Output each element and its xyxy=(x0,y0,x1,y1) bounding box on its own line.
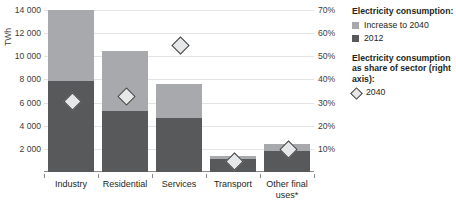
legend-label-increase: Increase to 2040 xyxy=(364,20,429,31)
legend-item-2040: 2040 xyxy=(352,87,456,98)
chart-container: TWh 2 0004 0006 0008 00010 00012 00014 0… xyxy=(0,0,456,201)
y-axis-left-tick: 4 000 xyxy=(19,121,41,131)
y-axis-left-tick: 12 000 xyxy=(15,28,41,38)
x-axis-tickmark xyxy=(44,174,45,178)
y-axis-right-tick: 60% xyxy=(318,28,335,38)
legend-diamond-2040-icon xyxy=(350,87,363,100)
bar-industry[interactable] xyxy=(48,10,94,172)
bar-residential[interactable] xyxy=(102,51,148,173)
y-axis-left-tick: 2 000 xyxy=(19,144,41,154)
x-axis-tickmark xyxy=(206,174,207,178)
x-axis-label-services: Services xyxy=(152,179,206,190)
x-axis-tickmark xyxy=(314,174,315,178)
y-axis-left-title: TWh xyxy=(3,28,13,46)
y-axis-right-tick: 40% xyxy=(318,74,335,84)
y-axis-right-tick: 30% xyxy=(318,98,335,108)
legend-label-2040: 2040 xyxy=(366,87,385,98)
x-axis-tickmark xyxy=(260,174,261,178)
bar-services[interactable] xyxy=(156,84,202,172)
x-axis-label-transport: Transport xyxy=(206,179,260,190)
y-axis-left: TWh 2 0004 0006 0008 00010 00012 00014 0… xyxy=(0,10,41,172)
bar-segment-increase-to-2040[interactable] xyxy=(48,10,94,81)
y-axis-right-tick: 70% xyxy=(318,5,335,15)
y-axis-right-tick: 50% xyxy=(318,51,335,61)
x-axis-label-industry: Industry xyxy=(44,179,98,190)
legend-item-2012: 2012 xyxy=(352,33,456,44)
x-axis-tickmark xyxy=(152,174,153,178)
x-axis-label-residential: Residential xyxy=(98,179,152,190)
legend-block-share: Electricity consumption as share of sect… xyxy=(352,53,456,99)
y-axis-left-tick: 10 000 xyxy=(15,51,41,61)
y-axis-left-tick: 14 000 xyxy=(15,5,41,15)
x-axis-label-other-final-uses: Other final uses* xyxy=(260,179,314,201)
chart-legend: Electricity consumption: Increase to 204… xyxy=(352,6,456,98)
y-axis-left-tick: 8 000 xyxy=(19,74,41,84)
bar-segment-2012[interactable] xyxy=(156,118,202,172)
y-axis-left-tick: 6 000 xyxy=(19,98,41,108)
legend-title-share-text: Electricity consumption as share of sect… xyxy=(352,53,451,84)
legend-title-share: Electricity consumption as share of sect… xyxy=(352,53,456,85)
y-axis-right: 10%20%30%40%50%60%70% xyxy=(318,10,352,172)
y-axis-right-tick: 20% xyxy=(318,121,335,131)
plot-area xyxy=(44,10,314,172)
bar-segment-2012[interactable] xyxy=(102,111,148,172)
bar-series-group xyxy=(44,10,314,172)
legend-swatch-2012-icon xyxy=(352,35,359,42)
legend-swatch-increase-icon xyxy=(352,22,359,29)
marker-2040-share[interactable] xyxy=(171,36,189,54)
x-axis-labels: IndustryResidentialServicesTransportOthe… xyxy=(44,174,314,201)
legend-title-consumption: Electricity consumption: xyxy=(352,6,456,17)
x-axis-tickmark xyxy=(98,174,99,178)
bar-segment-increase-to-2040[interactable] xyxy=(156,84,202,118)
y-axis-right-tick: 10% xyxy=(318,144,335,154)
legend-item-increase: Increase to 2040 xyxy=(352,20,456,31)
legend-title-consumption-text: Electricity consumption: xyxy=(352,6,453,16)
legend-label-2012: 2012 xyxy=(364,33,383,44)
